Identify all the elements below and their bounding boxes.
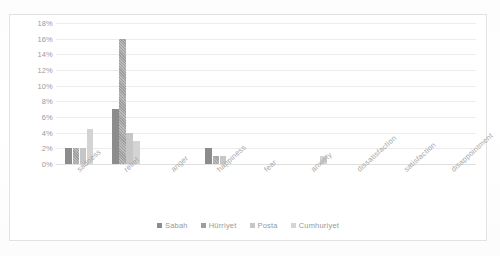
y-axis-tick-label: 2% [42,144,53,153]
y-axis-tick-label: 4% [42,128,53,137]
bar-group [429,23,476,164]
bar-group [149,23,196,164]
bars-layer [56,23,476,164]
bar [65,148,72,164]
chart-legend: SabahHürriyetPostaCumhuriyet [10,221,486,230]
y-axis-tick-label: 8% [42,97,53,106]
legend-swatch-icon [157,223,162,228]
bar-group [243,23,290,164]
legend-label: Posta [258,221,278,230]
y-axis-tick-label: 10% [37,81,53,90]
bar [119,39,126,164]
bar-group [336,23,383,164]
legend-label: Hürriyet [209,221,237,230]
y-axis-tick-label: 12% [37,66,53,75]
bar-group [103,23,150,164]
legend-swatch-icon [291,223,296,228]
x-axis-category-labels: sadnessreliefangerhappinessfearanxietydi… [56,167,476,225]
bar [205,148,212,164]
chart-frame: 18%16%14%12%10%8%6%4%2%0% sadnessreliefa… [9,14,487,241]
legend-item-posta[interactable]: Posta [250,221,278,230]
y-axis-tick-label: 6% [42,113,53,122]
bar-group [289,23,336,164]
bar [73,148,80,164]
legend-item-hürriyet[interactable]: Hürriyet [201,221,237,230]
y-axis-tick-label: 0% [42,160,53,169]
legend-label: Cumhuriyet [299,221,339,230]
y-axis-tick-label: 14% [37,50,53,59]
y-axis-tick-label: 16% [37,34,53,43]
bar-group [196,23,243,164]
y-axis: 18%16%14%12%10%8%6%4%2%0% [19,23,53,164]
plot-area [56,23,476,164]
legend-item-sabah[interactable]: Sabah [157,221,188,230]
legend-item-cumhuriyet[interactable]: Cumhuriyet [291,221,339,230]
legend-swatch-icon [250,223,255,228]
legend-swatch-icon [201,223,206,228]
legend-label: Sabah [165,221,188,230]
bar [112,109,119,164]
clipped-header-text [262,0,442,4]
y-axis-tick-label: 18% [37,19,53,28]
bar-group [56,23,103,164]
